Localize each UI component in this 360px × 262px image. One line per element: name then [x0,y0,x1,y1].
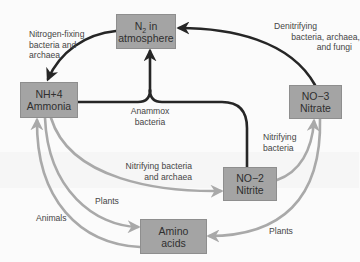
nitrite-formula: NO−2 [236,172,264,184]
nitrate-formula: NO−3 [302,90,330,102]
arrow-anammox-nitrite-branch [150,90,247,167]
amino-line2: acids [161,237,186,249]
label-nitrifying-bacteria-archaea: Nitrifying bacteria and archaea [110,161,192,182]
node-nitrite: NO−2 Nitrite [223,167,277,201]
n2-name: atmosphere [118,32,173,44]
n2-formula: N2 in [135,20,158,32]
ammonia-formula: NH+4 [35,88,62,100]
nitrate-name: Nitrate [300,102,331,114]
label-plants-from-nitrate: Plants [269,226,293,237]
label-nitrifying-bacteria: Nitrifying bacteria [263,132,296,153]
arrow-anammox-ammonia-branch [77,90,150,102]
arrow-animals [37,120,140,247]
ammonia-name: Ammonia [27,100,71,112]
label-denitrifying: Denitrifying bacteria, archaea, and fung… [268,21,360,53]
label-anammox: Anammox bacteria [127,106,173,127]
node-ammonia: NH+4 Ammonia [20,82,78,118]
amino-line1: Amino [159,225,189,237]
label-nitrogen-fixing: Nitrogen-fixing bacteria and archaea [29,29,84,61]
label-plants-from-ammonia: Plants [95,196,119,207]
label-animals: Animals [36,213,67,224]
node-nitrate: NO−3 Nitrate [289,85,342,119]
node-amino-acids: Amino acids [140,219,207,254]
node-n2-atmosphere: N2 in atmosphere [116,14,176,49]
nitrite-name: Nitrite [236,184,263,196]
